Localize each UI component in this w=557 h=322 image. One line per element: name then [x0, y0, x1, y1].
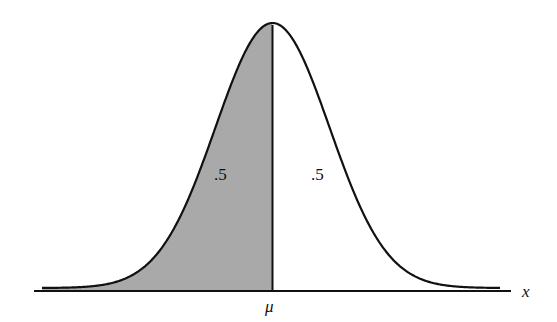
mean-tick-label: μ: [265, 298, 274, 315]
normal-curve-figure: [0, 0, 557, 322]
right-area-label: .5: [311, 166, 324, 183]
left-half-shaded-region: [42, 23, 273, 291]
x-axis-label: x: [522, 283, 530, 300]
left-area-label: .5: [214, 166, 227, 183]
